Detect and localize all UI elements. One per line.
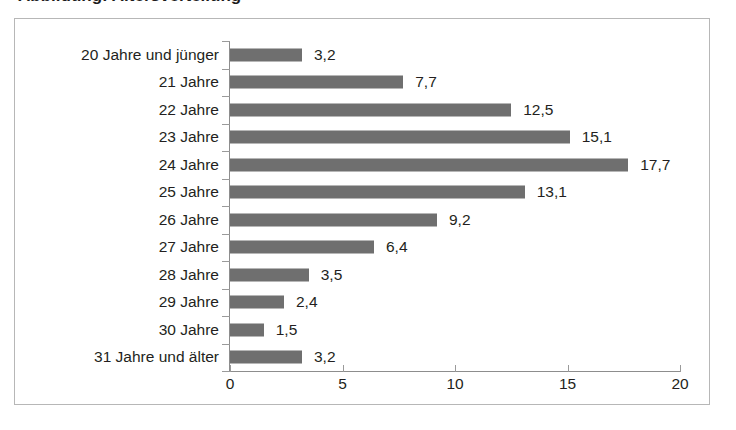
category-tick	[222, 206, 230, 207]
category-label: 22 Jahre	[159, 102, 219, 118]
category-tick	[222, 151, 230, 152]
bar-value-label: 12,5	[523, 101, 553, 119]
category-tick	[222, 289, 230, 290]
bar	[230, 351, 302, 364]
value-tick	[230, 365, 231, 372]
bar	[230, 186, 525, 199]
bar	[230, 268, 309, 281]
bar-value-label: 7,7	[415, 73, 437, 91]
category-tick	[222, 96, 230, 97]
value-tick-label: 5	[338, 375, 347, 393]
category-label: 29 Jahre	[159, 295, 219, 311]
bar	[230, 131, 570, 144]
category-label: 30 Jahre	[159, 322, 219, 338]
category-tick	[222, 41, 230, 42]
value-tick	[680, 365, 681, 372]
bar-value-label: 6,4	[386, 238, 408, 256]
title-fragment-text: Abbildung: Altersverteilung	[18, 0, 241, 6]
bar	[230, 158, 628, 171]
category-tick	[222, 234, 230, 235]
category-label: 21 Jahre	[159, 75, 219, 91]
bar-value-label: 3,2	[314, 46, 336, 64]
value-tick	[343, 365, 344, 372]
category-label: 23 Jahre	[159, 130, 219, 146]
category-label: 28 Jahre	[159, 267, 219, 283]
chart-frame: 20 Jahre und jünger21 Jahre22 Jahre23 Ja…	[14, 18, 710, 405]
category-tick	[222, 179, 230, 180]
category-tick	[222, 124, 230, 125]
bar	[230, 241, 374, 254]
bar-value-label: 1,5	[276, 321, 298, 339]
bar-value-label: 3,2	[314, 348, 336, 366]
bar	[230, 296, 284, 309]
bar-value-label: 15,1	[582, 128, 612, 146]
bar-chart-plot-area: 20 Jahre und jünger21 Jahre22 Jahre23 Ja…	[15, 19, 711, 406]
value-tick-label: 20	[671, 375, 688, 393]
bar-value-label: 3,5	[321, 266, 343, 284]
category-tick	[222, 316, 230, 317]
bar	[230, 323, 264, 336]
category-tick	[222, 344, 230, 345]
cut-off-title-fragment: Abbildung: Altersverteilung	[0, 0, 736, 16]
bar-value-label: 2,4	[296, 293, 318, 311]
value-tick	[455, 365, 456, 372]
bar-value-label: 13,1	[537, 183, 567, 201]
value-tick-label: 15	[559, 375, 576, 393]
bar	[230, 213, 437, 226]
category-label: 26 Jahre	[159, 212, 219, 228]
value-tick	[568, 365, 569, 372]
value-tick-label: 10	[446, 375, 463, 393]
category-tick	[222, 261, 230, 262]
category-label: 24 Jahre	[159, 157, 219, 173]
value-tick-label: 0	[226, 375, 235, 393]
category-tick	[222, 371, 230, 372]
category-label: 27 Jahre	[159, 240, 219, 256]
bar-value-label: 9,2	[449, 211, 471, 229]
bar	[230, 48, 302, 61]
category-tick	[222, 69, 230, 70]
bar-value-label: 17,7	[640, 156, 670, 174]
bar	[230, 103, 511, 116]
bar	[230, 76, 403, 89]
category-label: 20 Jahre und jünger	[81, 47, 219, 63]
category-label: 31 Jahre und älter	[94, 350, 219, 366]
category-label: 25 Jahre	[159, 185, 219, 201]
